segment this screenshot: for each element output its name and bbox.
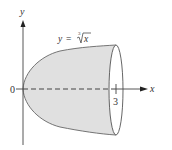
origin-label: 0 (10, 84, 15, 95)
x-axis-arrow-icon (140, 87, 148, 92)
x-axis-label: x (149, 83, 155, 94)
curve-equation: y = 3 x (57, 31, 91, 44)
svg-text:3: 3 (78, 31, 81, 36)
y-axis-arrow-icon (21, 20, 26, 27)
svg-text:y: y (57, 34, 63, 44)
solid-of-revolution-diagram: y x 0 3 y = 3 x (0, 0, 172, 150)
x-tick-label: 3 (113, 96, 118, 107)
shaded-solid (23, 45, 116, 135)
svg-text:=: = (66, 34, 71, 44)
svg-text:x: x (83, 34, 89, 44)
y-axis-label: y (19, 6, 25, 17)
